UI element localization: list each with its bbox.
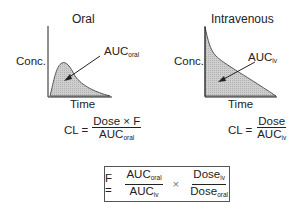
oral-title: Oral: [72, 12, 95, 26]
denominator: AUCoral: [98, 128, 135, 144]
fraction: Dose × F AUCoral: [92, 115, 141, 144]
fraction: Dose AUCiv: [256, 115, 287, 144]
numerator: Doseiv: [192, 168, 226, 185]
oral-x-label: Time: [70, 98, 95, 110]
iv-y-label: Conc.: [174, 55, 204, 67]
equation-lhs: CL =: [64, 124, 88, 136]
denominator: AUCiv: [256, 128, 287, 144]
iv-x-label: Time: [228, 98, 253, 110]
bioavailability-equation-box: F = AUCoral AUCiv × Doseiv Doseoral: [104, 166, 230, 202]
equation-lhs: F =: [105, 172, 119, 196]
iv-auc-label: AUCiv: [248, 51, 277, 64]
oral-curve-area: [50, 63, 110, 96]
auc-fraction: AUCoral AUCiv: [125, 168, 162, 201]
oral-y-label: Conc.: [16, 55, 46, 67]
numerator: AUCoral: [125, 168, 162, 185]
numerator: Dose: [257, 115, 286, 128]
oral-cl-equation: CL = Dose × F AUCoral: [64, 115, 141, 144]
iv-title: Intravenous: [211, 12, 274, 26]
dose-fraction: Doseiv Doseoral: [189, 168, 229, 201]
iv-cl-equation: CL = Dose AUCiv: [228, 115, 287, 144]
equation-lhs: CL =: [228, 124, 252, 136]
denominator: AUCiv: [129, 185, 160, 201]
oral-auc-label: AUCoral: [104, 45, 139, 58]
denominator: Doseoral: [189, 185, 229, 201]
numerator: Dose × F: [92, 115, 141, 128]
multiply-icon: ×: [173, 178, 180, 190]
